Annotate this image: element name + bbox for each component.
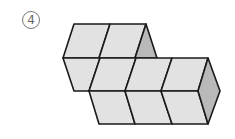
cube-net-diagram [0, 0, 235, 139]
